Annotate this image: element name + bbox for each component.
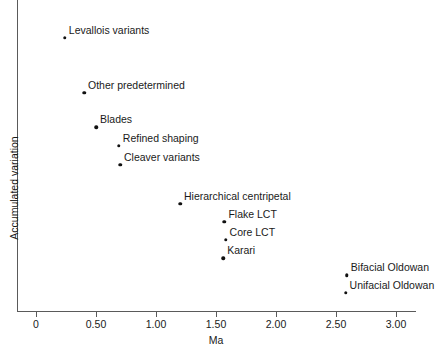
- data-point[interactable]: [63, 36, 67, 40]
- x-axis-tick-label: 0: [33, 318, 39, 330]
- x-axis-tick-mark: [36, 312, 37, 317]
- scatter-plot-figure: 00.501.001.502.002.503.00 Ma Accumulated…: [0, 0, 436, 351]
- x-axis-tick-label: 3.00: [386, 318, 406, 330]
- data-point[interactable]: [94, 126, 98, 130]
- data-point[interactable]: [178, 202, 182, 206]
- data-point-label: Bifacial Oldowan: [351, 261, 429, 273]
- x-axis-tick-mark: [216, 312, 217, 317]
- x-axis-tick-label: 1.00: [146, 318, 166, 330]
- data-point[interactable]: [224, 238, 228, 242]
- data-point[interactable]: [221, 256, 225, 260]
- data-point-label: Cleaver variants: [124, 151, 200, 163]
- data-point[interactable]: [117, 144, 121, 148]
- x-axis-tick-mark: [96, 312, 97, 317]
- data-point-label: Flake LCT: [228, 208, 276, 220]
- x-axis-title: Ma: [209, 334, 224, 346]
- data-point[interactable]: [344, 291, 348, 295]
- data-point-label: Levallois variants: [69, 24, 150, 36]
- x-axis-tick-label: 1.50: [206, 318, 226, 330]
- x-axis-tick-mark: [156, 312, 157, 317]
- data-point-label: Core LCT: [230, 226, 276, 238]
- data-point[interactable]: [223, 220, 227, 224]
- data-point-label: Blades: [100, 113, 132, 125]
- plot-area: Levallois variantsOther predeterminedBla…: [0, 0, 436, 311]
- data-point-label: Karari: [227, 244, 255, 256]
- x-axis-tick-label: 2.00: [266, 318, 286, 330]
- data-point[interactable]: [118, 163, 122, 167]
- data-point-label: Unifacial Oldowan: [350, 279, 435, 291]
- x-axis-tick-label: 2.50: [326, 318, 346, 330]
- data-point-label: Refined shaping: [123, 132, 199, 144]
- data-point-label: Hierarchical centripetal: [184, 190, 291, 202]
- data-point-label: Other predetermined: [88, 79, 185, 91]
- x-axis-tick-mark: [336, 312, 337, 317]
- x-axis-tick-mark: [276, 312, 277, 317]
- data-point[interactable]: [82, 91, 86, 95]
- data-point[interactable]: [345, 274, 349, 278]
- x-axis-tick-mark: [396, 312, 397, 317]
- x-axis-tick-label: 0.50: [86, 318, 106, 330]
